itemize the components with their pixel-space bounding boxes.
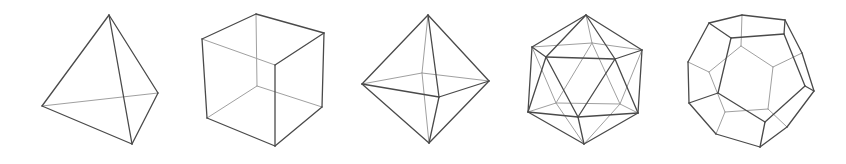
- octahedron-front-edge: [429, 97, 439, 143]
- cube-front-edge: [322, 33, 324, 107]
- icosahedron-front-edge: [532, 15, 586, 47]
- icosahedron-back-edge: [556, 103, 620, 104]
- dodecahedron-front-edge: [709, 15, 742, 23]
- octahedron: [362, 15, 489, 143]
- tetrahedron-front-edge: [42, 15, 109, 106]
- dodecahedron-back-edge: [741, 15, 742, 46]
- tetrahedron-front-edge: [42, 106, 132, 144]
- icosahedron-front-edge: [578, 59, 615, 117]
- dodecahedron-front-edge: [689, 93, 718, 103]
- icosahedron-front-edge: [546, 15, 586, 57]
- cube-back-edge: [207, 86, 257, 118]
- dodecahedron-back-edge: [709, 46, 741, 72]
- icosahedron-back-edge: [532, 43, 592, 47]
- dodecahedron-front-edge: [689, 103, 716, 134]
- cube-front-edge: [202, 39, 207, 118]
- dodecahedron-front-edge: [765, 86, 805, 122]
- icosahedron-back-edge: [528, 103, 556, 112]
- dodecahedron-front-edge: [784, 20, 785, 34]
- octahedron-front-edge: [362, 84, 429, 143]
- icosahedron: [528, 15, 642, 144]
- icosahedron-front-edge: [546, 57, 578, 117]
- dodecahedron-front-edge: [716, 134, 760, 147]
- cube-front-edge: [207, 118, 275, 146]
- dodecahedron-back-edge: [768, 109, 787, 127]
- octahedron-back-edge: [422, 73, 429, 143]
- cube-back-edge: [256, 14, 257, 86]
- dodecahedron-back-edge: [773, 53, 802, 67]
- dodecahedron-front-edge: [731, 34, 784, 38]
- octahedron-front-edge: [428, 15, 439, 97]
- icosahedron-back-edge: [592, 43, 642, 50]
- dodecahedron-front-edge: [688, 62, 689, 103]
- dodecahedron-back-edge: [741, 46, 773, 67]
- dodecahedron-back-edge: [709, 72, 725, 112]
- tetrahedron-back-edge: [42, 93, 158, 106]
- dodecahedron-back-edge: [688, 62, 709, 72]
- octahedron-front-edge: [362, 84, 439, 97]
- dodecahedron-back-edge: [768, 67, 773, 109]
- dodecahedron-front-edge: [688, 23, 709, 62]
- dodecahedron-front-edge: [787, 91, 814, 127]
- octahedron-front-edge: [428, 15, 489, 81]
- platonic-solids-figure: [0, 0, 846, 164]
- icosahedron-front-edge: [584, 113, 638, 144]
- icosahedron-front-edge: [546, 57, 615, 59]
- dodecahedron-front-edge: [742, 15, 785, 20]
- dodecahedron-front-edge: [718, 38, 731, 93]
- dodecahedron-front-edge: [709, 23, 731, 38]
- dodecahedron-front-edge: [785, 20, 802, 53]
- octahedron-back-edge: [422, 73, 489, 81]
- cube-front-edge: [275, 107, 322, 146]
- dodecahedron-front-edge: [802, 53, 814, 91]
- tetrahedron: [42, 15, 158, 144]
- dodecahedron-back-edge: [716, 112, 725, 134]
- icosahedron-back-edge: [556, 43, 592, 103]
- dodecahedron-front-edge: [718, 93, 765, 122]
- tetrahedron-front-edge: [132, 93, 158, 144]
- icosahedron-front-edge: [615, 50, 642, 59]
- icosahedron-back-edge: [584, 104, 620, 144]
- cube-front-edge: [256, 14, 324, 33]
- icosahedron-front-edge: [578, 113, 638, 117]
- dodecahedron: [688, 15, 814, 147]
- cube-front-edge: [202, 14, 256, 39]
- octahedron-back-edge: [422, 15, 428, 73]
- cube-front-edge: [275, 33, 324, 65]
- cube-back-edge: [257, 86, 322, 107]
- wireframe-canvas: [0, 0, 846, 164]
- icosahedron-front-edge: [586, 15, 642, 50]
- cube-back-edge: [202, 39, 275, 65]
- cube: [202, 14, 324, 146]
